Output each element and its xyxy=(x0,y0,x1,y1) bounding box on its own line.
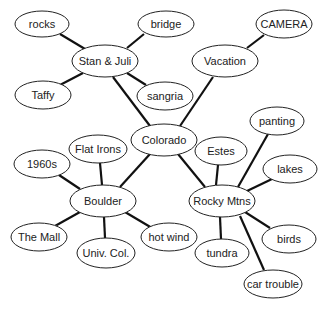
node-boulder[interactable]: Boulder xyxy=(70,185,136,217)
mind-map-canvas: ColoradoStan & JuliVacationBoulderRocky … xyxy=(0,0,329,309)
node-bridge[interactable]: bridge xyxy=(138,11,194,37)
connector-line xyxy=(220,217,221,239)
node-label: Vacation xyxy=(204,55,246,67)
node-flatirons[interactable]: Flat Irons xyxy=(69,135,127,163)
node-label: Taffy xyxy=(31,89,55,101)
node-vacation[interactable]: Vacation xyxy=(192,45,258,77)
node-label: Boulder xyxy=(84,195,122,207)
node-label: Flat Irons xyxy=(75,143,121,155)
node-label: Colorado xyxy=(142,134,187,146)
node-label: birds xyxy=(277,233,301,245)
node-label: The Mall xyxy=(18,231,60,243)
node-hotwind[interactable]: hot wind xyxy=(141,223,197,251)
node-cartrouble[interactable]: car trouble xyxy=(244,270,302,298)
connector-line xyxy=(127,73,146,85)
node-estes[interactable]: Estes xyxy=(195,137,247,165)
node-label: panting xyxy=(259,115,295,127)
node-label: sangria xyxy=(147,90,184,102)
node-label: Rocky Mtns xyxy=(193,195,251,207)
node-label: bridge xyxy=(151,18,182,30)
connector-line xyxy=(120,154,150,187)
node-label: Stan & Juli xyxy=(79,55,132,67)
node-lakes[interactable]: lakes xyxy=(263,155,317,183)
connector-line xyxy=(127,34,144,48)
node-label: 1960s xyxy=(27,158,57,170)
node-panting[interactable]: panting xyxy=(250,107,304,135)
node-label: lakes xyxy=(277,163,303,175)
connector-line xyxy=(104,217,105,238)
node-tundra[interactable]: tundra xyxy=(195,239,249,267)
node-label: CAMERA xyxy=(260,18,308,30)
connector-line xyxy=(100,163,102,185)
connector-line xyxy=(247,179,272,191)
node-taffy[interactable]: Taffy xyxy=(15,81,71,109)
connector-line xyxy=(125,212,152,228)
node-colorado[interactable]: Colorado xyxy=(131,124,197,156)
node-label: Estes xyxy=(207,145,235,157)
node-birds[interactable]: birds xyxy=(262,225,316,253)
nodes: ColoradoStan & JuliVacationBoulderRocky … xyxy=(11,10,317,298)
connector-line xyxy=(245,212,270,228)
node-label: Univ. Col. xyxy=(83,247,130,259)
connector-line xyxy=(216,165,218,185)
node-1960s[interactable]: 1960s xyxy=(14,150,70,178)
node-label: tundra xyxy=(206,247,238,259)
node-label: hot wind xyxy=(149,231,190,243)
node-sangria[interactable]: sangria xyxy=(137,82,193,110)
node-label: car trouble xyxy=(247,278,299,290)
connector-line xyxy=(60,73,83,85)
node-rocky[interactable]: Rocky Mtns xyxy=(189,185,255,217)
node-mall[interactable]: The Mall xyxy=(11,223,67,251)
node-stan[interactable]: Stan & Juli xyxy=(72,45,138,77)
connector-line xyxy=(238,134,268,187)
node-rocks[interactable]: rocks xyxy=(15,11,69,37)
connector-line xyxy=(59,175,80,189)
connector-line xyxy=(55,212,80,226)
node-label: rocks xyxy=(29,18,56,30)
node-camera[interactable]: CAMERA xyxy=(256,10,312,38)
connector-line xyxy=(60,34,85,49)
connector-line xyxy=(247,35,264,48)
node-univ[interactable]: Univ. Col. xyxy=(77,238,135,268)
